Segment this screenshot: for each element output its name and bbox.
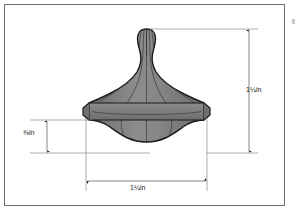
page-edge-mark xyxy=(292,19,295,24)
dimension-label-overall-width: 1¼in xyxy=(130,184,146,191)
dimension-label-rim-height: ⅜in xyxy=(23,129,35,136)
spinning-top-object xyxy=(83,29,210,143)
flange-rim xyxy=(83,103,210,120)
flange-rim-body xyxy=(89,103,204,120)
figure-page: 1¼in 1¼in ⅜in xyxy=(0,0,301,220)
flange-tip-right xyxy=(204,103,210,120)
dimension-label-overall-height: 1¼in xyxy=(246,86,262,93)
flange-tip-left xyxy=(83,103,89,120)
technical-drawing-canvas xyxy=(0,0,301,220)
